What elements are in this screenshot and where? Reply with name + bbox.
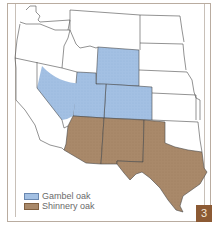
legend-item-shinnery-oak: Shinnery oak <box>24 201 95 211</box>
legend-label: Gambel oak <box>42 191 91 201</box>
arizona <box>64 116 104 164</box>
colorado <box>104 84 152 120</box>
gambel-oak-swatch <box>24 193 39 200</box>
shinnery-oak-swatch <box>24 203 39 210</box>
legend-item-gambel-oak: Gambel oak <box>24 191 95 201</box>
new-mexico <box>101 118 144 164</box>
figure-number-badge: 3 <box>196 205 212 222</box>
legend: Gambel oak Shinnery oak <box>24 191 95 211</box>
legend-label: Shinnery oak <box>42 201 95 211</box>
gambel-oak-range <box>37 47 152 120</box>
wyoming <box>96 47 139 86</box>
